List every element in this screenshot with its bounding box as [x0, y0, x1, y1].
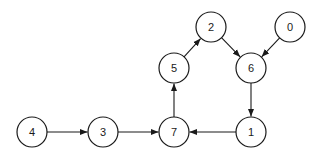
node-3: 3 [88, 117, 118, 147]
node-4: 4 [17, 117, 47, 147]
node-7: 7 [159, 117, 189, 147]
edge-0-to-6 [262, 38, 280, 57]
edge-5-to-2 [184, 39, 201, 57]
node-label: 1 [248, 126, 254, 138]
node-2: 2 [196, 12, 226, 42]
node-label: 5 [171, 62, 177, 74]
node-0: 0 [275, 12, 305, 42]
edge-2-to-6 [221, 38, 240, 57]
node-label: 6 [248, 62, 254, 74]
node-label: 4 [29, 126, 35, 138]
node-label: 2 [208, 21, 214, 33]
node-label: 7 [171, 126, 177, 138]
nodes-layer: 01234567 [17, 12, 305, 147]
graph-canvas: 01234567 [0, 0, 319, 155]
node-label: 3 [100, 126, 106, 138]
directed-graph: 01234567 [0, 0, 319, 155]
node-6: 6 [236, 53, 266, 83]
node-label: 0 [287, 21, 293, 33]
node-1: 1 [236, 117, 266, 147]
node-5: 5 [159, 53, 189, 83]
